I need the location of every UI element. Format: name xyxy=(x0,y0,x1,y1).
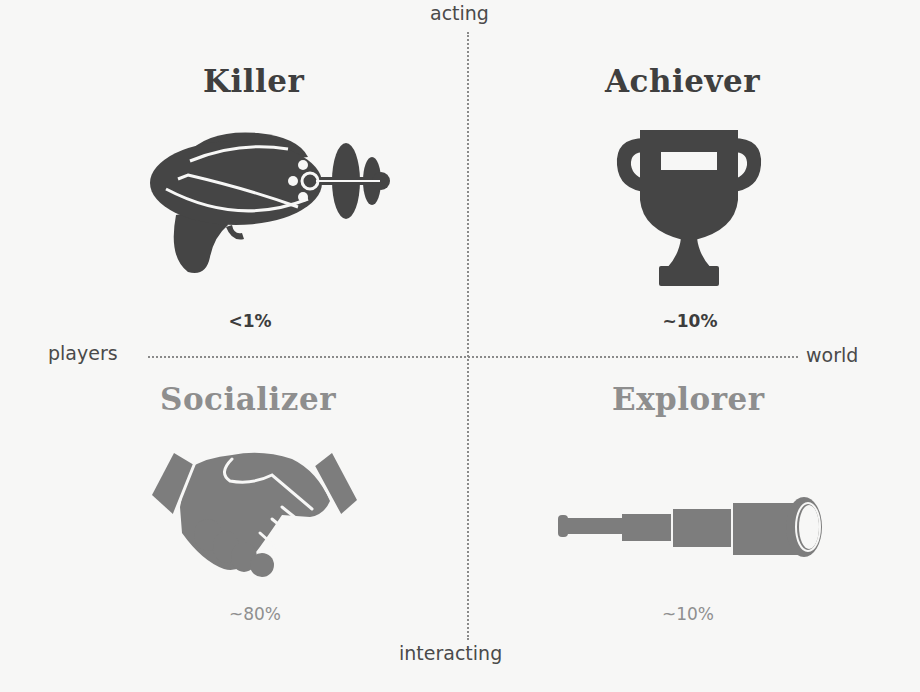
killer-percent: <1% xyxy=(220,311,280,331)
handshake-icon xyxy=(152,445,357,580)
axis-label-acting: acting xyxy=(430,2,489,24)
explorer-percent: ~10% xyxy=(648,604,728,624)
explorer-title: Explorer xyxy=(612,381,765,417)
achiever-title: Achiever xyxy=(605,63,760,99)
spyglass-icon xyxy=(558,487,823,567)
vertical-axis-line xyxy=(467,32,469,640)
killer-title: Killer xyxy=(203,63,304,99)
ray-gun-icon xyxy=(148,127,393,277)
axis-label-world: world xyxy=(806,344,858,366)
axis-label-players: players xyxy=(48,342,118,364)
trophy-icon xyxy=(615,120,763,290)
horizontal-axis-line xyxy=(148,356,798,358)
achiever-percent: ~10% xyxy=(650,311,730,331)
axis-label-interacting: interacting xyxy=(399,642,502,664)
socializer-title: Socializer xyxy=(160,381,336,417)
socializer-percent: ~80% xyxy=(215,604,295,624)
